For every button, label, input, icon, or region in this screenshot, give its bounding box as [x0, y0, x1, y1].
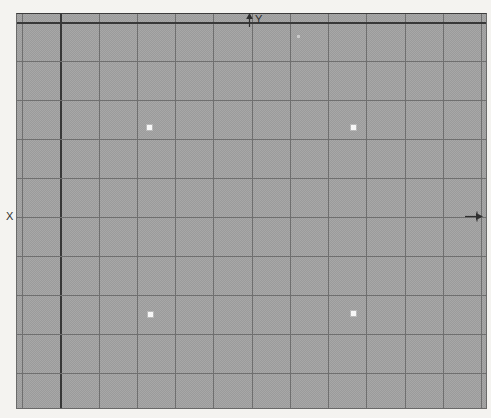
horizontal-grid-line — [17, 139, 486, 140]
horizontal-grid-line — [17, 295, 486, 296]
horizontal-grid-line — [17, 100, 486, 101]
point-marker[interactable] — [147, 125, 152, 130]
vertical-grid-line — [213, 14, 214, 408]
horizontal-grid-line — [17, 178, 486, 179]
x-axis-indicator: X — [6, 210, 13, 222]
point-marker[interactable] — [351, 125, 356, 130]
vertical-grid-line — [405, 14, 406, 408]
y-axis-indicator: Y — [244, 13, 262, 27]
point-marker[interactable] — [148, 312, 153, 317]
horizontal-grid-line — [17, 217, 486, 218]
x-axis-label: X — [6, 210, 13, 222]
y-axis-label: Y — [255, 13, 262, 25]
horizontal-grid-line — [17, 334, 486, 335]
vertical-grid-line — [443, 14, 444, 408]
x-axis-arrow-indicator — [465, 210, 483, 223]
point-marker[interactable] — [297, 35, 300, 38]
drawing-canvas[interactable] — [16, 13, 487, 409]
horizontal-grid-line — [17, 256, 486, 257]
major-vertical-grid-line — [60, 14, 62, 408]
vertical-grid-line — [99, 14, 100, 408]
vertical-grid-line — [137, 14, 138, 408]
vertical-grid-line — [175, 14, 176, 408]
horizontal-grid-line — [17, 373, 486, 374]
arrow-up-icon — [244, 13, 255, 27]
app-workspace: { "axis_indicators": { "y_label": "Y", "… — [0, 0, 491, 418]
vertical-grid-line — [22, 14, 23, 408]
arrow-right-icon — [465, 210, 483, 223]
point-marker[interactable] — [351, 311, 356, 316]
vertical-grid-line — [366, 14, 367, 408]
horizontal-grid-line — [17, 61, 486, 62]
vertical-grid-line — [252, 14, 253, 408]
vertical-grid-line — [328, 14, 329, 408]
vertical-grid-line — [290, 14, 291, 408]
